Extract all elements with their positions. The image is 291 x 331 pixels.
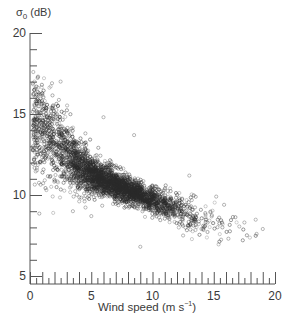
x-tick-label: 15 bbox=[207, 289, 221, 303]
x-tick-label: 0 bbox=[27, 289, 34, 303]
x-axis-title: Wind speed (m s−1) bbox=[98, 300, 196, 313]
y-tick-label: 20 bbox=[13, 26, 27, 40]
x-tick-label: 5 bbox=[88, 289, 95, 303]
x-axis-title-close: ) bbox=[192, 301, 196, 313]
x-axis-title-text: Wind speed (m s bbox=[98, 301, 184, 313]
x-tick-label: 20 bbox=[268, 289, 282, 303]
y-tick-label: 5 bbox=[19, 269, 26, 283]
data-points bbox=[31, 70, 264, 248]
scatter-chart: 510152005101520 bbox=[0, 0, 291, 331]
y-tick-label: 10 bbox=[13, 188, 27, 202]
y-tick-label: 15 bbox=[13, 107, 27, 121]
